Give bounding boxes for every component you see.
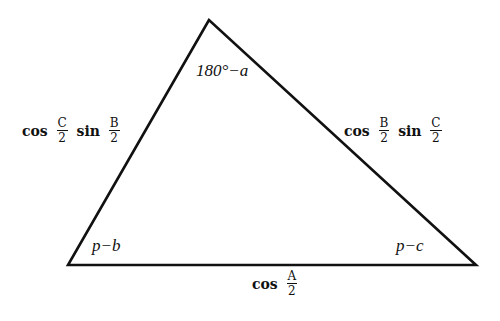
denominator: 2: [109, 131, 120, 144]
numerator: C: [430, 117, 441, 131]
denominator: 2: [287, 284, 298, 297]
triangle: [0, 0, 500, 321]
numerator: A: [287, 270, 298, 284]
denominator: 2: [379, 131, 390, 144]
fraction-b-over-2: B2: [109, 117, 120, 144]
cos-function: cos: [344, 123, 370, 139]
angle-label-top: 180°−a: [196, 62, 248, 79]
numerator: B: [109, 117, 120, 131]
fraction-c-over-2: C2: [430, 117, 441, 144]
sin-function: sin: [77, 123, 100, 139]
side-label-right: cos B2 sin C2: [344, 117, 446, 144]
numerator: C: [57, 117, 68, 131]
cos-function: cos: [252, 276, 278, 292]
side-label-bottom: cos A2: [252, 270, 301, 297]
numerator: B: [379, 117, 390, 131]
fraction-b-over-2: B2: [379, 117, 390, 144]
fraction-a-over-2: A2: [287, 270, 298, 297]
fraction-c-over-2: C2: [57, 117, 68, 144]
cos-function: cos: [22, 123, 48, 139]
denominator: 2: [57, 131, 68, 144]
angle-label-bottom-left: p−b: [92, 237, 120, 254]
sin-function: sin: [398, 123, 421, 139]
denominator: 2: [430, 131, 441, 144]
angle-label-bottom-right: p−c: [396, 237, 424, 254]
side-label-left: cos C2 sin B2: [22, 117, 124, 144]
